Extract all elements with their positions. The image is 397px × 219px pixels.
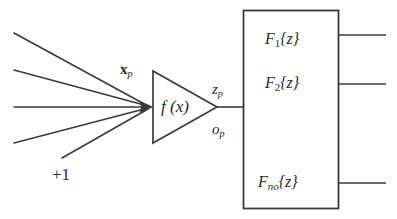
output-lines-group — [338, 35, 386, 183]
output-function-label-2: F2{z} — [265, 75, 299, 93]
neural-unit-diagram: xp f (x) zp op +1 F1{z} F2{z} Fno{z} — [0, 0, 397, 219]
activation-function-label: f (x) — [161, 98, 189, 115]
bias-input-line — [62, 109, 148, 158]
input-lines-group — [14, 33, 148, 158]
output-signal-label: op — [212, 122, 225, 139]
diagram-canvas — [0, 0, 397, 219]
pre-activation-label: zp — [212, 82, 223, 99]
output-function-label-1: F1{z} — [265, 31, 299, 49]
output-function-label-3: Fno{z} — [258, 174, 298, 192]
bias-label: +1 — [52, 166, 70, 183]
input-line-4 — [14, 108, 148, 143]
input-vector-label: xp — [120, 62, 133, 79]
